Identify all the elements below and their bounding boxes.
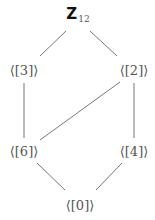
node-4: ⟨[4]⟩ (120, 145, 149, 158)
subgroup-lattice-diagram: Z12 ⟨[3]⟩ ⟨[2]⟩ ⟨[6]⟩ ⟨[4]⟩ ⟨[0]⟩ (0, 0, 155, 220)
node-3: ⟨[3]⟩ (10, 64, 39, 77)
node-2: ⟨[2]⟩ (120, 64, 149, 77)
edge-4-0 (96, 163, 122, 190)
node-6: ⟨[6]⟩ (10, 145, 39, 158)
edge-z12-3 (40, 31, 66, 56)
node-z12-symbol: Z (66, 5, 77, 23)
lattice-edges (0, 0, 155, 220)
node-z12: Z12 (66, 7, 89, 24)
node-z12-subscript: 12 (78, 14, 89, 24)
node-0: ⟨[0]⟩ (66, 199, 95, 212)
edge-z12-2 (90, 31, 117, 56)
edge-2-6 (40, 82, 120, 140)
edge-6-0 (37, 163, 65, 190)
